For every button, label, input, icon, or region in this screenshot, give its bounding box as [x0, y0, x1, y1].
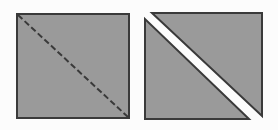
left-panel-group [17, 14, 129, 118]
figure-container: Two gray squares side by side. The left … [0, 0, 278, 130]
diagram-canvas [0, 0, 278, 130]
